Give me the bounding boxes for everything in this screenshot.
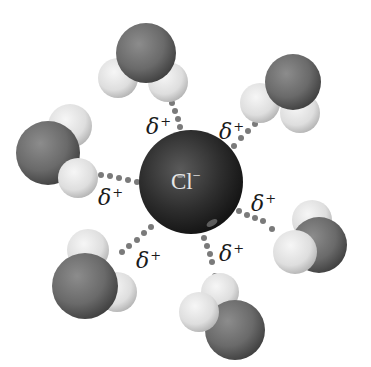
partial-charge-label-top: δ+ <box>146 115 171 138</box>
plus-sign: + <box>150 248 161 263</box>
delta-symbol: δ <box>251 191 264 216</box>
water-molecule-right <box>273 200 347 274</box>
water-molecule-left <box>16 104 98 198</box>
water-molecule-lower-left <box>52 229 137 319</box>
delta-symbol: δ <box>219 119 232 144</box>
plus-sign: + <box>233 119 244 134</box>
partial-charge-label-lower-left: δ+ <box>136 249 161 272</box>
ion-charge: − <box>193 168 201 183</box>
delta-symbol: δ <box>98 185 111 210</box>
delta-symbol: δ <box>136 248 149 273</box>
delta-symbol: δ <box>219 241 232 266</box>
chloride-ion-label: Cl− <box>171 169 201 193</box>
partial-charge-label-left: δ+ <box>98 186 123 209</box>
plus-sign: + <box>233 241 244 256</box>
water-molecule-upper-right <box>240 54 321 133</box>
plus-sign: + <box>160 114 171 129</box>
water-molecule-bottom <box>179 273 265 360</box>
partial-charge-label-bottom: δ+ <box>219 242 244 265</box>
plus-sign: + <box>112 185 123 200</box>
partial-charge-label-upper-right: δ+ <box>219 120 244 143</box>
chloride-hydration-diagram: Cl− δ+ δ+ δ+ δ+ δ+ δ+ <box>0 0 371 367</box>
delta-symbol: δ <box>146 114 159 139</box>
water-molecule-top <box>98 23 188 102</box>
plus-sign: + <box>265 191 276 206</box>
ion-symbol: Cl <box>171 169 193 194</box>
partial-charge-label-right: δ+ <box>251 192 276 215</box>
